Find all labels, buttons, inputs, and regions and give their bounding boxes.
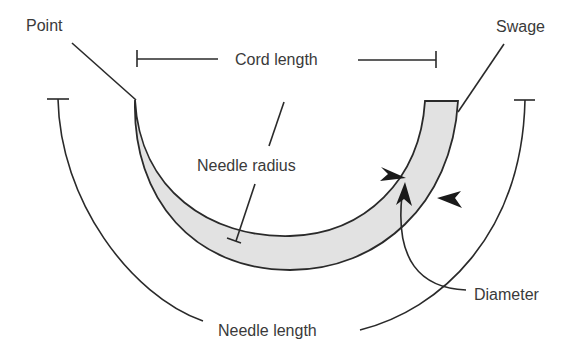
outer-edge-arrow-icon	[437, 191, 462, 208]
label-needle-length: Needle length	[218, 322, 317, 339]
label-point: Point	[26, 17, 63, 34]
needle-body	[135, 100, 458, 270]
needle-radius-upper-line	[269, 102, 284, 146]
label-cord-length: Cord length	[235, 51, 318, 68]
label-needle-radius: Needle radius	[197, 157, 296, 174]
swage-leader-line	[458, 44, 504, 112]
needle-diagram: Point Swage Cord length Needle radius Di…	[0, 0, 574, 351]
point-leader-line	[72, 43, 136, 100]
label-diameter: Diameter	[474, 286, 540, 303]
label-swage: Swage	[496, 18, 545, 35]
